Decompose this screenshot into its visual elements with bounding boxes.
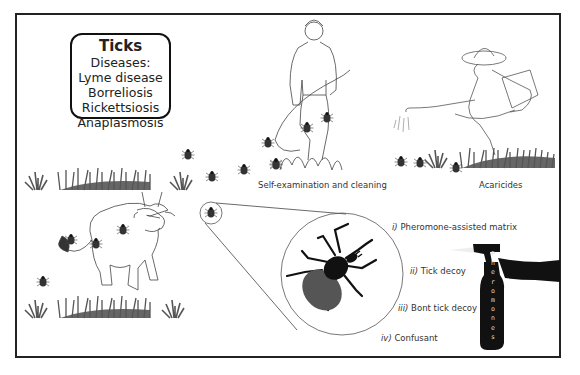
sprayer-caption: Acaricides <box>479 180 523 190</box>
info-box-title: Ticks <box>72 38 169 55</box>
grass-right <box>425 148 555 168</box>
bottle-letter: s <box>488 333 498 342</box>
method-numeral: iii) <box>398 303 408 313</box>
magnifier <box>200 202 403 335</box>
info-box-subtitle: Diseases: <box>72 55 169 70</box>
farmer-illustration <box>275 20 350 170</box>
bottle-letter: m <box>488 296 498 305</box>
cow-ticks <box>37 224 130 287</box>
cow-illustration <box>59 192 175 290</box>
bottle-letter: e <box>488 324 498 333</box>
grass-top-left <box>25 168 192 190</box>
tick-trail <box>182 149 283 182</box>
farmer-ticks <box>262 112 334 170</box>
bottle-letter: o <box>488 287 498 296</box>
bottle-letter: e <box>488 268 498 277</box>
method-text: Confusant <box>394 333 437 343</box>
bottle-letter: P <box>488 250 498 259</box>
bottle-letter: n <box>488 314 498 323</box>
spray-bottle <box>473 244 560 350</box>
bottle-label: P h e r o m o n e s <box>488 250 498 342</box>
magnified-tick <box>287 224 376 318</box>
grass-bottom-left <box>25 296 184 318</box>
disease-item: Anaplasmosis <box>72 115 169 130</box>
method-numeral: iv) <box>381 333 392 343</box>
method-text: Bont tick decoy <box>411 303 477 313</box>
disease-item: Rickettsiosis <box>72 100 169 115</box>
method-text: Tick decoy <box>421 266 466 276</box>
method-1: i) Pheromone-assisted matrix <box>392 222 517 232</box>
disease-item: Lyme disease <box>72 70 169 85</box>
ticks-info-box: Ticks Diseases: Lyme disease Borreliosis… <box>70 33 171 119</box>
bottle-letter: h <box>488 259 498 268</box>
bottle-letter: r <box>488 278 498 287</box>
bottle-letter: o <box>488 305 498 314</box>
sprayer-illustration <box>394 48 538 155</box>
farmer-caption: Self-examination and cleaning <box>258 180 387 190</box>
method-numeral: ii) <box>410 266 418 276</box>
method-2: ii) Tick decoy <box>410 266 466 276</box>
method-4: iv) Confusant <box>381 333 438 343</box>
method-3: iii) Bont tick decoy <box>398 303 477 313</box>
method-text: Pheromone-assisted matrix <box>400 222 517 232</box>
disease-item: Borreliosis <box>72 85 169 100</box>
method-numeral: i) <box>392 222 398 232</box>
